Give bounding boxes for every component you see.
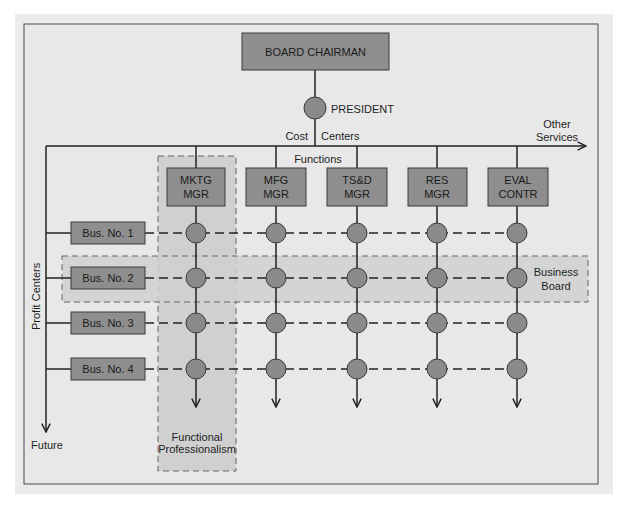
matrix-node	[427, 313, 447, 333]
matrix-org-diagram: BOARD CHAIRMAN PRESIDENT Cost Centers Ot…	[0, 0, 622, 509]
matrix-node	[347, 359, 367, 379]
function-label-tsd-1: TS&D	[342, 174, 371, 186]
functional-professionalism-label-1: Functional	[172, 431, 223, 443]
other-services-label-1: Other	[543, 118, 571, 130]
business-label-2: Bus. No. 2	[82, 272, 133, 284]
function-label-mktg-1: MKTG	[180, 174, 212, 186]
matrix-node	[347, 223, 367, 243]
business-label-4: Bus. No. 4	[82, 363, 133, 375]
function-label-tsd-2: MGR	[344, 188, 370, 200]
matrix-node	[186, 359, 206, 379]
president-label: PRESIDENT	[331, 103, 394, 115]
functions-label: Functions	[294, 153, 342, 165]
matrix-node	[507, 223, 527, 243]
matrix-node	[347, 268, 367, 288]
matrix-node	[427, 268, 447, 288]
matrix-node	[186, 313, 206, 333]
matrix-node	[266, 359, 286, 379]
centers-label: Centers	[321, 130, 360, 142]
matrix-node	[347, 313, 367, 333]
matrix-node	[186, 268, 206, 288]
matrix-node	[266, 268, 286, 288]
business-board-label-2: Board	[541, 280, 570, 292]
panel-frame	[24, 24, 598, 484]
functional-professionalism-label-2: Professionalism	[158, 443, 236, 455]
function-label-mfg-2: MGR	[263, 188, 289, 200]
matrix-node	[427, 223, 447, 243]
cost-label: Cost	[285, 130, 308, 142]
matrix-node	[266, 313, 286, 333]
profit-centers-label: Profit Centers	[30, 262, 42, 330]
matrix-node	[507, 268, 527, 288]
function-label-mktg-2: MGR	[183, 188, 209, 200]
matrix-node	[266, 223, 286, 243]
future-label: Future	[31, 439, 63, 451]
matrix-node	[507, 313, 527, 333]
matrix-node	[507, 359, 527, 379]
function-label-mfg-1: MFG	[264, 174, 288, 186]
function-label-eval-2: CONTR	[498, 188, 537, 200]
function-boxes: MKTG MGR MFG MGR TS&D MGR RES MGR EVAL C…	[167, 168, 548, 206]
business-board-label-1: Business	[534, 266, 579, 278]
business-label-1: Bus. No. 1	[82, 227, 133, 239]
other-services-label-2: Services	[536, 131, 579, 143]
board-chairman-label: BOARD CHAIRMAN	[265, 46, 366, 58]
function-label-res-1: RES	[426, 174, 449, 186]
business-label-3: Bus. No. 3	[82, 317, 133, 329]
president-node	[304, 97, 326, 119]
matrix-node	[427, 359, 447, 379]
function-label-eval-1: EVAL	[504, 174, 531, 186]
matrix-node	[186, 223, 206, 243]
function-label-res-2: MGR	[424, 188, 450, 200]
